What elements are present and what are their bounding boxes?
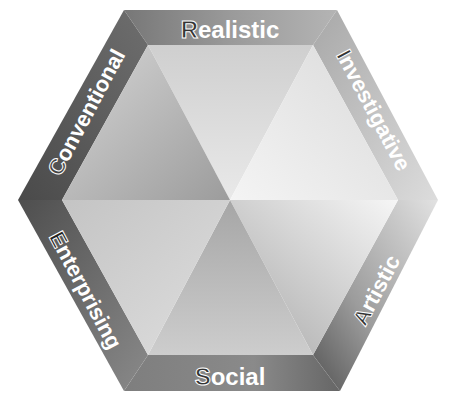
svg-text:Realistic: Realistic — [181, 16, 280, 43]
label-realistic-initial: R — [181, 16, 198, 43]
riasec-hexagon-diagram: Realistic Investigative Artistic Social … — [0, 0, 452, 397]
label-social-rest: ocial — [211, 363, 266, 390]
label-social: Social — [195, 363, 266, 390]
label-social-initial: S — [195, 363, 211, 390]
svg-text:Social: Social — [195, 363, 266, 390]
label-realistic: Realistic — [181, 16, 280, 43]
label-realistic-rest: ealistic — [198, 16, 279, 43]
